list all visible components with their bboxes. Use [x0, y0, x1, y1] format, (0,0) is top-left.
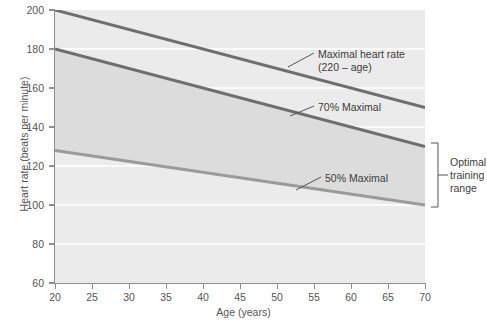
x-label-25: 25	[72, 291, 112, 303]
annotation-70-percent-maximal: 70% Maximal	[318, 101, 381, 114]
x-label-50: 50	[257, 291, 297, 303]
x-label-30: 30	[109, 291, 149, 303]
x-tick-20	[55, 284, 56, 289]
x-label-65: 65	[368, 291, 408, 303]
y-tick-160	[49, 87, 54, 88]
y-tick-120	[49, 165, 54, 166]
x-tick-40	[203, 284, 204, 289]
annotation-optimal-training-range: Optimal training range	[450, 156, 486, 195]
x-label-70: 70	[405, 291, 445, 303]
x-label-40: 40	[183, 291, 223, 303]
y-tick-100	[49, 204, 54, 205]
x-tick-65	[388, 284, 389, 289]
y-label-200: 200	[0, 4, 44, 16]
y-tick-180	[49, 48, 54, 49]
annotation-50-percent-maximal: 50% Maximal	[325, 172, 388, 185]
x-tick-50	[277, 284, 278, 289]
x-label-60: 60	[331, 291, 371, 303]
x-tick-60	[351, 284, 352, 289]
y-tick-60	[49, 282, 54, 283]
y-label-60: 60	[0, 277, 44, 289]
y-tick-80	[49, 243, 54, 244]
x-axis-title: Age (years)	[0, 306, 487, 318]
x-tick-25	[92, 284, 93, 289]
chart-figure: 200 180 160 140 120 100 80 60 20 25 30 3…	[0, 0, 487, 324]
x-tick-70	[425, 284, 426, 289]
x-label-35: 35	[146, 291, 186, 303]
y-axis-title: Heart rate (beats per minute)	[18, 44, 30, 244]
optimal-range-bracket	[431, 143, 438, 207]
x-tick-30	[129, 284, 130, 289]
annotation-maximal-heart-rate: Maximal heart rate (220 – age)	[318, 48, 405, 73]
x-label-45: 45	[220, 291, 260, 303]
y-tick-200	[49, 9, 54, 10]
x-tick-55	[314, 284, 315, 289]
x-label-55: 55	[294, 291, 334, 303]
y-axis-line	[54, 9, 55, 284]
y-tick-140	[49, 126, 54, 127]
x-tick-35	[166, 284, 167, 289]
x-label-20: 20	[35, 291, 75, 303]
x-tick-45	[240, 284, 241, 289]
